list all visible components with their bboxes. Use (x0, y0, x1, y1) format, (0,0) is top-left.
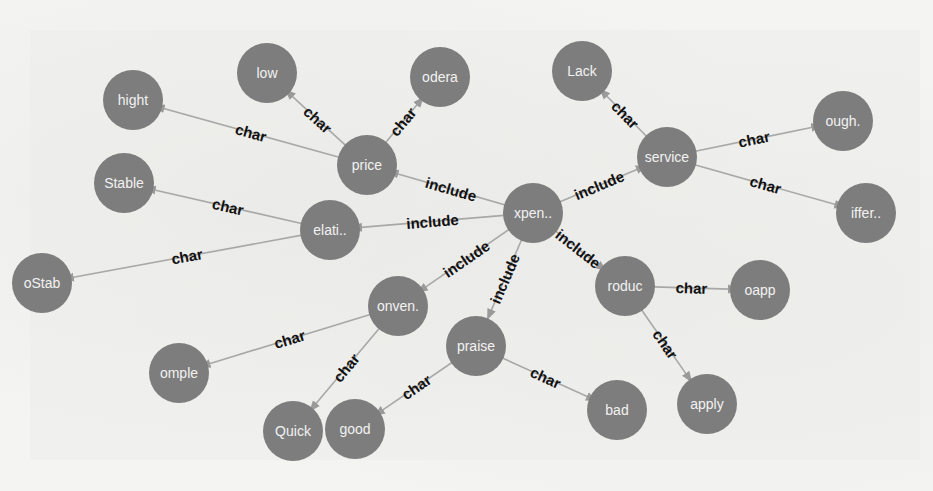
node-hight[interactable]: hight (103, 70, 163, 130)
knowledge-graph: includeincludeincludeincludeincludeinclu… (0, 0, 933, 491)
edge-label: char (398, 371, 434, 403)
node-bad[interactable]: bad (587, 380, 647, 440)
node-ough[interactable]: ough. (813, 91, 873, 151)
node-stable[interactable]: Stable (94, 153, 154, 213)
node-label: hight (118, 92, 148, 108)
edge-price-low: char (286, 90, 350, 149)
node-oapp[interactable]: oapp (730, 260, 790, 320)
node-omple[interactable]: omple (149, 343, 209, 403)
edge-xpen-produc: include (551, 226, 606, 272)
node-label: Quick (275, 423, 312, 439)
node-label: oapp (744, 282, 775, 298)
edge-price-odera: char (383, 97, 424, 146)
edge-produc-apply: char (639, 307, 691, 382)
edge-label: char (649, 326, 681, 362)
node-apply[interactable]: apply (677, 374, 737, 434)
node-praise[interactable]: praise (446, 316, 506, 376)
edge-label: char (528, 363, 564, 392)
node-conven[interactable]: onven. (368, 276, 428, 336)
node-low[interactable]: low (237, 43, 297, 103)
node-label: xpen.. (514, 205, 552, 221)
node-label: roduc (607, 278, 642, 294)
edge-xpen-service: include (552, 166, 646, 205)
edge-label: include (440, 237, 493, 281)
node-label: Lack (567, 63, 598, 79)
node-good[interactable]: good (325, 399, 385, 459)
node-odera[interactable]: odera (410, 47, 470, 107)
node-label: bad (605, 402, 628, 418)
node-elati[interactable]: elati.. (300, 200, 360, 260)
edge-praise-bad: char (495, 355, 596, 401)
node-service[interactable]: service (637, 127, 697, 187)
edge-label: char (675, 279, 707, 297)
edge-produc-oapp: char (645, 279, 738, 297)
edge-label: include (552, 226, 604, 272)
node-label: apply (690, 396, 723, 412)
node-label: low (256, 65, 278, 81)
edge-label: include (572, 167, 627, 203)
edge-label: char (170, 245, 204, 267)
node-label: onven. (377, 298, 419, 314)
node-quick[interactable]: Quick (263, 401, 323, 461)
edge-label: char (329, 350, 362, 385)
node-label: omple (160, 365, 198, 381)
edge-label: include (487, 251, 523, 306)
node-lack[interactable]: Lack (552, 41, 612, 101)
edge-xpen-elati: include (352, 211, 513, 232)
edge-label: include (406, 211, 460, 232)
node-label: price (352, 157, 383, 173)
edge-label: char (211, 195, 246, 219)
node-label: service (645, 149, 690, 165)
node-produc[interactable]: roduc (595, 256, 655, 316)
node-label: ough. (825, 113, 860, 129)
edge-service-ough: char (687, 125, 821, 152)
edge-label: char (386, 104, 419, 139)
node-label: Stable (104, 175, 144, 191)
edge-praise-good: char (375, 358, 458, 415)
edge-conven-quick: char (310, 325, 382, 411)
edge-elati-stable: char (146, 188, 311, 226)
edge-label: include (423, 174, 478, 205)
edge-label: char (748, 172, 783, 197)
node-label: praise (457, 338, 495, 354)
node-differ[interactable]: iffer.. (836, 183, 896, 243)
edge-elati-ostab: char (64, 234, 310, 279)
node-xpen[interactable]: xpen.. (503, 183, 563, 243)
node-label: elati.. (313, 222, 346, 238)
node-ostab[interactable]: oStab (12, 253, 72, 313)
node-price[interactable]: price (337, 135, 397, 195)
edge-service-differ: char (687, 163, 845, 207)
edge-xpen-price: include (389, 171, 514, 207)
node-label: odera (422, 69, 458, 85)
node-label: oStab (24, 275, 61, 291)
edge-label: char (272, 326, 307, 352)
node-label: iffer.. (851, 205, 881, 221)
edge-service-lack: char (600, 89, 650, 140)
node-label: good (339, 421, 370, 437)
diagram-canvas: includeincludeincludeincludeincludeinclu… (0, 0, 933, 491)
edge-label: char (737, 128, 772, 151)
edge-label: char (233, 120, 268, 145)
nodes-layer: xpen..priceelati..serviceonven.praiserod… (12, 41, 896, 461)
